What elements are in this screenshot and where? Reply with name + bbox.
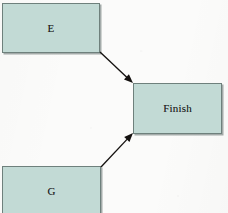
diagram-edges [0,0,228,213]
edge-line-g-finish [101,137,129,167]
edge-g-to-finish [101,133,133,167]
edge-line-e-finish [100,52,129,79]
edge-e-to-finish [100,52,133,83]
diagram-canvas: E Finish G [0,0,228,213]
